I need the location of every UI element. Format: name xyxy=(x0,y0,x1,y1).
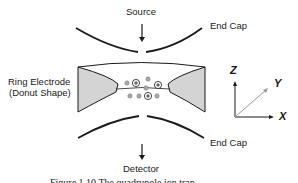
x-axis-label: X xyxy=(279,110,286,122)
source-label: Source xyxy=(126,6,156,17)
detector-arrow-icon xyxy=(139,155,145,160)
z-axis-label: Z xyxy=(230,64,237,76)
top-end-cap-right xyxy=(146,28,202,52)
end-cap-top-label: End Cap xyxy=(210,20,247,31)
ring-electrode-top-edge xyxy=(78,63,205,68)
figure-caption: Figure 1.10 The quadrupole ion trap xyxy=(50,177,195,183)
y-axis xyxy=(235,90,266,117)
ring-electrode-label: Ring Electrode xyxy=(8,76,70,87)
source-arrow-icon xyxy=(139,37,145,42)
end-cap-bottom-label: End Cap xyxy=(210,137,247,148)
ring-electrode-right xyxy=(168,67,205,112)
top-end-cap xyxy=(76,28,138,52)
bottom-end-cap xyxy=(78,116,139,138)
bottom-end-cap-right xyxy=(147,116,204,138)
detector-label: Detector xyxy=(123,163,159,174)
donut-shape-label: (Donut Shape) xyxy=(9,87,71,98)
y-axis-label: Y xyxy=(274,77,281,89)
ring-electrode-left xyxy=(78,67,118,112)
